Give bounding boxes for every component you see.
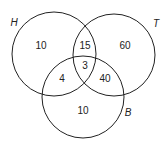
region-h-t: 15	[79, 40, 91, 51]
circle-t	[73, 14, 155, 96]
label-t: T	[153, 18, 160, 29]
region-h-t-b: 3	[82, 60, 88, 71]
label-h: H	[10, 17, 18, 28]
circle-h	[12, 12, 96, 96]
region-h-only: 10	[35, 40, 47, 51]
label-b: B	[125, 107, 132, 118]
region-t-only: 60	[119, 40, 131, 51]
region-h-b: 4	[59, 73, 65, 84]
region-t-b: 40	[99, 73, 111, 84]
region-b-only: 10	[77, 105, 89, 116]
venn-diagram: H T B 10 60 10 15 4 40 3	[0, 0, 166, 147]
